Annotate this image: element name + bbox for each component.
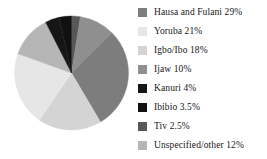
legend-swatch-igbo-ibo bbox=[138, 46, 147, 55]
legend-swatch-tiv bbox=[138, 122, 147, 131]
legend-swatch-ijaw bbox=[138, 65, 147, 74]
legend-label-ijaw: Ijaw 10% bbox=[154, 64, 191, 75]
legend-label-yoruba: Yoruba 21% bbox=[154, 26, 202, 37]
legend-item-hausa-and-fulani[interactable]: Hausa and Fulani 29% bbox=[137, 3, 267, 22]
legend-label-igbo-ibo: Igbo/Ibo 18% bbox=[154, 45, 208, 56]
pie-slice-group bbox=[15, 16, 129, 130]
legend-item-ibibio[interactable]: Ibibio 3.5% bbox=[137, 98, 267, 117]
legend-item-yoruba[interactable]: Yoruba 21% bbox=[137, 22, 267, 41]
legend-label-kanuri: Kanuri 4% bbox=[154, 83, 196, 94]
pie-chart-figure: Hausa and Fulani 29% Yoruba 21% Igbo/Ibo… bbox=[0, 0, 267, 159]
pie-chart-plot-area bbox=[14, 14, 130, 132]
legend-swatch-unspecified-other bbox=[138, 141, 147, 150]
legend-label-unspecified-other: Unspecified/other 12% bbox=[154, 140, 244, 151]
legend-item-ijaw[interactable]: Ijaw 10% bbox=[137, 60, 267, 79]
legend-label-hausa-and-fulani: Hausa and Fulani 29% bbox=[154, 7, 242, 18]
legend-swatch-hausa-and-fulani bbox=[138, 8, 147, 17]
legend-swatch-yoruba bbox=[138, 27, 147, 36]
legend-item-unspecified-other[interactable]: Unspecified/other 12% bbox=[137, 136, 267, 155]
legend-swatch-ibibio bbox=[138, 103, 147, 112]
pie-chart-svg bbox=[14, 14, 130, 132]
legend-label-tiv: Tiv 2.5% bbox=[154, 121, 190, 132]
legend-label-ibibio: Ibibio 3.5% bbox=[154, 102, 200, 113]
legend-swatch-kanuri bbox=[138, 84, 147, 93]
legend-item-kanuri[interactable]: Kanuri 4% bbox=[137, 79, 267, 98]
legend-item-tiv[interactable]: Tiv 2.5% bbox=[137, 117, 267, 136]
chart-legend: Hausa and Fulani 29% Yoruba 21% Igbo/Ibo… bbox=[137, 3, 267, 156]
legend-item-igbo-ibo[interactable]: Igbo/Ibo 18% bbox=[137, 41, 267, 60]
